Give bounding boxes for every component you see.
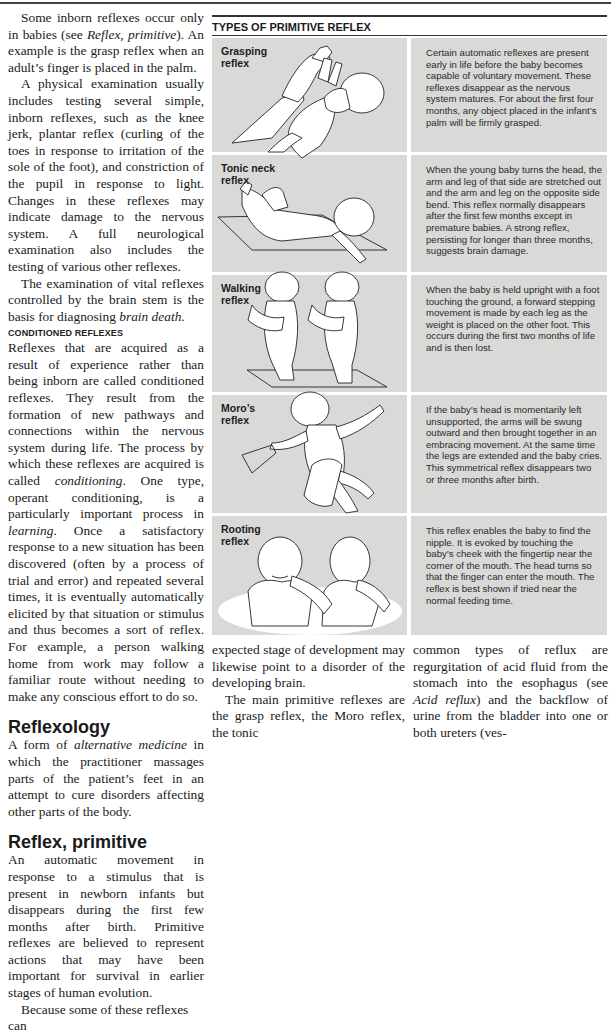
entry-heading-reflexology: Reflexology <box>8 717 204 737</box>
primitive-reflex-panel: TYPES OF PRIMITIVE REFLEX Grasping refle… <box>212 15 607 36</box>
cross-reference-link: Reflex, primitive <box>87 27 176 42</box>
cross-reference-link: alternative medicine <box>74 737 187 752</box>
subheading-conditioned-reflexes: CONDITIONED REFLEXES <box>8 326 204 340</box>
paragraph-physical-exam: A physical examination usually includes … <box>8 76 204 275</box>
cross-reference-link: learning <box>8 523 53 538</box>
description-box-moro: If the baby’s head is momentarily left u… <box>411 395 607 513</box>
reflex-description: This reflex enables the baby to find the… <box>426 525 602 606</box>
reflex-label: Walking reflex <box>221 282 281 306</box>
entry-body-reflexology: A form of alternative medicine in which … <box>8 737 204 820</box>
cross-reference-link: conditioning <box>55 473 123 488</box>
illustration-box-tonic-neck: Tonic neck reflex <box>212 155 407 272</box>
page-top-rule <box>0 2 611 4</box>
description-box-grasping: Certain automatic reflexes are present e… <box>411 38 607 152</box>
bottom-right-text-column: common types of reflux are regurgitation… <box>413 642 608 742</box>
reflex-description: If the baby’s head is momentarily left u… <box>426 404 602 485</box>
description-box-tonic-neck: When the young baby turns the head, the … <box>411 155 607 272</box>
reflex-description: When the young baby turns the head, the … <box>426 164 602 257</box>
entry-heading-reflex-primitive: Reflex, primitive <box>8 832 204 852</box>
description-box-walking: When the baby is held upright with a foo… <box>411 275 607 392</box>
cross-reference-link: brain death <box>119 309 181 324</box>
paragraph-main-primitive-reflexes: The main primitive reflexes are the gras… <box>212 692 405 742</box>
reflex-label: Rooting reflex <box>221 523 281 547</box>
reflex-row-rooting: Rooting reflex This reflex e <box>212 516 607 635</box>
panel-title-rule <box>212 35 607 36</box>
paragraph-development-disorder: expected stage of development may likewi… <box>212 642 405 692</box>
reflex-row-tonic-neck: Tonic neck reflex When the young baby tu… <box>212 155 607 272</box>
reflex-label: Moro’s reflex <box>221 402 281 426</box>
paragraph-conditioned-reflexes: Reflexes that are acquired as a result o… <box>8 340 204 705</box>
reflex-label: Grasping reflex <box>221 45 281 69</box>
illustration-box-walking: Walking reflex <box>212 275 407 392</box>
illustration-box-rooting: Rooting reflex <box>212 516 407 635</box>
reflex-description: Certain automatic reflexes are present e… <box>426 47 602 128</box>
reflex-label: Tonic neck reflex <box>221 162 281 186</box>
reflex-row-moro: Moro’s reflex If the baby’ <box>212 395 607 513</box>
bottom-middle-text-column: expected stage of development may likewi… <box>212 642 405 742</box>
paragraph-reflux-types: common types of reflux are regurgitation… <box>413 642 608 742</box>
panel-title: TYPES OF PRIMITIVE REFLEX <box>212 17 607 35</box>
reflex-row-walking: Walking reflex When the baby is held up <box>212 275 607 392</box>
reflex-description: When the baby is held upright with a foo… <box>426 284 602 354</box>
description-box-rooting: This reflex enables the baby to find the… <box>411 516 607 635</box>
cross-reference-link: Acid reflux <box>413 692 476 707</box>
illustration-box-grasping: Grasping reflex <box>212 38 407 152</box>
entry-continuation-reflex-primitive: Because some of these reflexes can <box>8 1002 204 1034</box>
illustration-box-moro: Moro’s reflex <box>212 395 407 513</box>
reflex-row-grasping: Grasping reflex <box>212 38 607 152</box>
paragraph-inborn-babies: Some inborn reflexes occur only in babie… <box>8 10 204 76</box>
paragraph-vital-reflexes: The examination of vital reflexes contro… <box>8 276 204 326</box>
left-text-column: Some inborn reflexes occur only in babie… <box>8 10 204 1034</box>
entry-body-reflex-primitive: An automatic movement in response to a s… <box>8 852 204 1001</box>
